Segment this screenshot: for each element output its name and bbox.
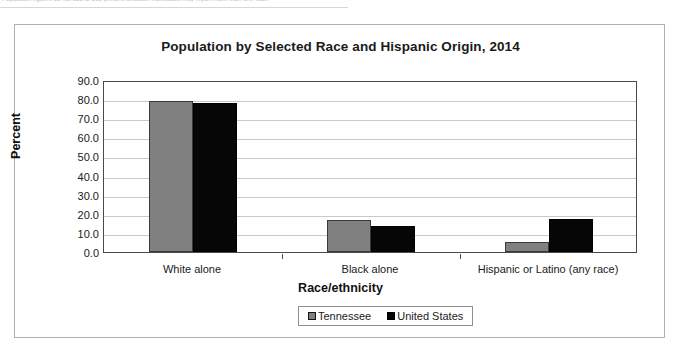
y-tick-label: 50.0 bbox=[55, 151, 99, 163]
x-category-label: Hispanic or Latino (any race) bbox=[478, 263, 619, 275]
y-tick-label: 70.0 bbox=[55, 113, 99, 125]
y-tick-label: 90.0 bbox=[55, 75, 99, 87]
legend-item: Tennessee bbox=[308, 310, 371, 322]
header-divider bbox=[0, 7, 348, 8]
x-category-label: White alone bbox=[163, 263, 221, 275]
y-tick-label: 30.0 bbox=[55, 190, 99, 202]
bar-tennessee bbox=[149, 101, 193, 252]
bar-united-states bbox=[193, 103, 237, 252]
y-axis-title: Percent bbox=[9, 113, 23, 159]
legend-item: United States bbox=[387, 310, 463, 322]
legend-label: United States bbox=[397, 310, 463, 322]
bar-tennessee bbox=[505, 242, 549, 252]
y-tick-label: 20.0 bbox=[55, 209, 99, 221]
y-axis-tick-labels: 90.080.070.060.050.040.030.020.010.00.0 bbox=[51, 81, 99, 253]
chart-legend: TennesseeUnited States bbox=[298, 306, 473, 326]
bar-united-states bbox=[371, 226, 415, 252]
legend-swatch-icon bbox=[387, 312, 395, 320]
x-category-label: Black alone bbox=[342, 263, 399, 275]
plot-area bbox=[103, 81, 637, 253]
y-tick-label: 60.0 bbox=[55, 132, 99, 144]
y-tick-label: 40.0 bbox=[55, 171, 99, 183]
chart-title: Population by Selected Race and Hispanic… bbox=[15, 39, 666, 54]
legend-label: Tennessee bbox=[318, 310, 371, 322]
legend-swatch-icon bbox=[308, 312, 316, 320]
cut-off-header-text: Population figures do not add to 100 per… bbox=[2, 0, 269, 2]
chart-figure: Population by Selected Race and Hispanic… bbox=[14, 24, 665, 338]
bar-tennessee bbox=[327, 220, 371, 252]
y-tick-label: 0.0 bbox=[55, 247, 99, 259]
bar-united-states bbox=[549, 219, 593, 252]
cut-off-header-strip: Population figures do not add to 100 per… bbox=[0, 0, 680, 7]
x-axis-tick bbox=[282, 254, 283, 259]
x-axis-tick bbox=[460, 254, 461, 259]
y-tick-label: 10.0 bbox=[55, 228, 99, 240]
y-tick-label: 80.0 bbox=[55, 94, 99, 106]
x-axis-title: Race/ethnicity bbox=[15, 281, 666, 295]
